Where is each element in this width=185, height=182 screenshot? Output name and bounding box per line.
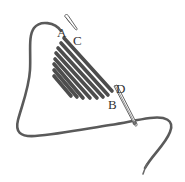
needle-top-icon (65, 15, 78, 30)
label-a: A (57, 25, 67, 40)
stitch-diagram: A C D B (0, 0, 185, 182)
label-d: D (116, 81, 125, 96)
label-c: C (73, 33, 82, 48)
satin-stitches (54, 38, 112, 98)
label-b: B (108, 97, 117, 112)
